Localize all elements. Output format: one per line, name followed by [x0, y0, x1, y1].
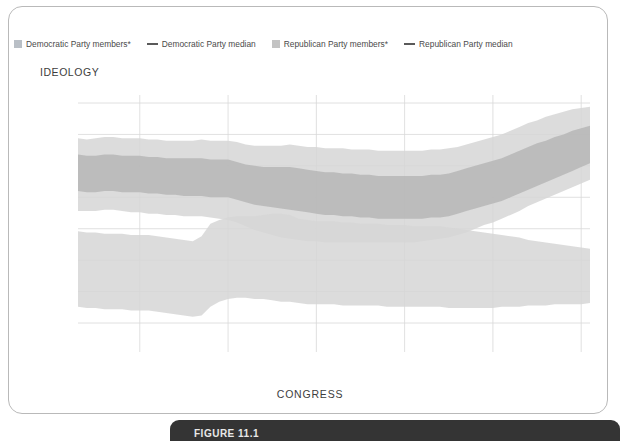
chart-x-axis-title: CONGRESS: [0, 388, 620, 400]
figure-caption: FIGURE 11.1: [194, 428, 259, 439]
ideology-chart-svg: [0, 0, 620, 441]
figure-footer-bar: FIGURE 11.1: [170, 420, 620, 441]
chart-plot-area: [0, 0, 620, 441]
